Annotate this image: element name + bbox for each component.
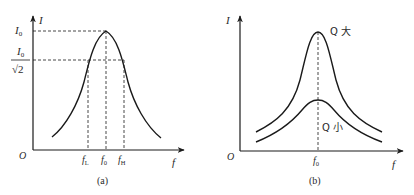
y-axis-label: I (38, 14, 44, 26)
panel-a: I O f I0 I0 √2 fL f0 fH (a) (11, 14, 184, 187)
f0-label: f0 (101, 154, 107, 166)
high-q-label: Q 大 (330, 25, 351, 37)
svg-text:√2: √2 (12, 63, 24, 75)
low-q-label: Q 小 (322, 122, 343, 133)
svg-text:I0: I0 (16, 45, 25, 59)
panel-a-caption: (a) (97, 175, 108, 187)
resonance-curve (52, 31, 161, 138)
panel-b-caption: (b) (309, 175, 321, 187)
half-power-current-label: I0 √2 (11, 45, 30, 75)
high-q-curve (256, 32, 382, 132)
fl-label: fL (82, 154, 89, 166)
fh-label: fH (118, 154, 126, 166)
peak-current-label: I0 (14, 24, 23, 38)
x-axis-label: f (392, 158, 397, 170)
origin-label: O (19, 150, 26, 161)
x-axis-label: f (172, 156, 177, 168)
f0-label: f0 (313, 155, 319, 167)
panel-b: I O f f0 Q 大 Q 小 (b) (225, 14, 403, 187)
resonance-diagram: I O f I0 I0 √2 fL f0 fH (a) (0, 0, 414, 195)
origin-label: O (227, 151, 234, 162)
y-axis-label: I (225, 14, 231, 26)
